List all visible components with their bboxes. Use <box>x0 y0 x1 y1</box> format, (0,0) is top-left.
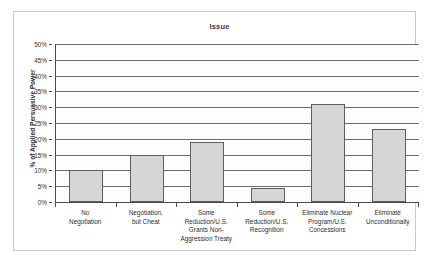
y-axis-tick-mark <box>49 123 52 124</box>
y-axis-tick-label: 10% <box>34 167 47 174</box>
gridline <box>56 186 419 187</box>
x-axis-tick-mark <box>358 203 359 207</box>
y-axis-tick-label: 5% <box>38 183 47 190</box>
y-axis-tick-label: 0% <box>38 199 47 206</box>
y-axis-tick-mark <box>49 155 52 156</box>
y-axis-tick-label: 35% <box>34 88 47 95</box>
gridline <box>56 76 419 77</box>
x-axis-category-label: NoNegotiation <box>55 209 116 226</box>
y-axis-tick-mark <box>49 202 52 203</box>
gridline <box>56 170 419 171</box>
y-axis-tick-mark <box>49 170 52 171</box>
gridline <box>56 139 419 140</box>
x-axis-category-labels: NoNegotiationNegotiation,but CheatSomeRe… <box>55 209 418 261</box>
y-axis-tick-label: 20% <box>34 135 47 142</box>
y-axis-tick-mark <box>49 60 52 61</box>
x-axis-tick-mark <box>237 203 238 207</box>
gridline <box>56 60 419 61</box>
x-axis-tick-mark <box>297 203 298 207</box>
y-axis-tick-label: 45% <box>34 56 47 63</box>
bar <box>311 104 345 202</box>
gridline <box>56 91 419 92</box>
x-axis-tick-mark <box>116 203 117 207</box>
y-axis-tick-mark <box>49 186 52 187</box>
y-axis-tick-label: 15% <box>34 151 47 158</box>
y-axis-tick-mark <box>49 76 52 77</box>
bar-chart-figure: Issue % of Applied Persuasive Power 50%4… <box>0 0 439 268</box>
bar <box>130 155 164 202</box>
y-axis-tick-label: 30% <box>34 104 47 111</box>
y-axis-tick-label: 50% <box>34 41 47 48</box>
x-axis-category-label: SomeReduction/U.S.Recognition <box>237 209 298 235</box>
y-axis-tick-mark <box>49 91 52 92</box>
gridline <box>56 107 419 108</box>
y-axis-tick-mark <box>49 44 52 45</box>
x-axis-category-label: EliminateUnconditionally <box>358 209 419 226</box>
y-axis-tick-label: 40% <box>34 72 47 79</box>
bar <box>372 129 406 202</box>
gridline <box>56 155 419 156</box>
plot-area <box>55 44 419 203</box>
x-axis-tick-mark <box>418 203 419 207</box>
gridline <box>56 44 419 45</box>
x-axis-category-label: SomeReduction/U.S.Grants Non-Aggression … <box>176 209 237 243</box>
x-axis-tick-mark <box>176 203 177 207</box>
bar <box>190 142 224 202</box>
gridline <box>56 123 419 124</box>
x-axis-tick-mark <box>55 203 56 207</box>
y-axis-tick-mark <box>49 139 52 140</box>
chart-title: Issue <box>0 22 439 31</box>
bar <box>69 170 103 202</box>
y-axis-tick-labels: 50%45%40%35%30%25%20%15%10%5%0% <box>0 44 52 202</box>
x-axis-category-label: Negotiation,but Cheat <box>116 209 177 226</box>
y-axis-tick-label: 25% <box>34 120 47 127</box>
bar <box>251 188 285 202</box>
y-axis-tick-mark <box>49 107 52 108</box>
x-axis-category-label: Eliminate NuclearProgram/U.S.Concessions <box>297 209 358 235</box>
